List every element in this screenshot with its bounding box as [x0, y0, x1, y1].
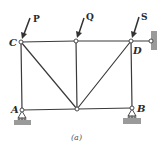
member-BD [131, 41, 132, 108]
member-Q-mid [76, 41, 77, 109]
joint-A [20, 108, 24, 112]
joint-B-label: B [136, 103, 145, 114]
load-Q-label: Q [86, 12, 94, 22]
member-CQ [21, 41, 76, 42]
member-A-mid [22, 109, 77, 110]
load-Q-arrow-icon [76, 18, 84, 38]
member-mid-B [77, 108, 132, 109]
load-P-label: P [33, 14, 40, 24]
joint-A-label: A [10, 104, 19, 115]
truss-members [21, 41, 151, 110]
load-P-arrow-icon [21, 18, 30, 39]
joint-B [130, 106, 134, 110]
truss-diagram: P Q S C D A B (a) [0, 0, 167, 151]
load-S-arrow-icon [131, 17, 139, 38]
member-C-mid [21, 42, 77, 109]
joint-D-label: D [132, 45, 142, 56]
joint-C-label: C [9, 37, 17, 48]
joint-C [19, 40, 23, 44]
figure-caption: (a) [71, 133, 82, 142]
member-AC [21, 42, 22, 110]
joint-bottom-mid [75, 107, 79, 111]
joint-top-mid [74, 39, 78, 43]
member-D-mid [77, 41, 131, 109]
joint-D [129, 39, 133, 43]
load-S-label: S [141, 12, 148, 22]
joint-wall [149, 39, 153, 43]
